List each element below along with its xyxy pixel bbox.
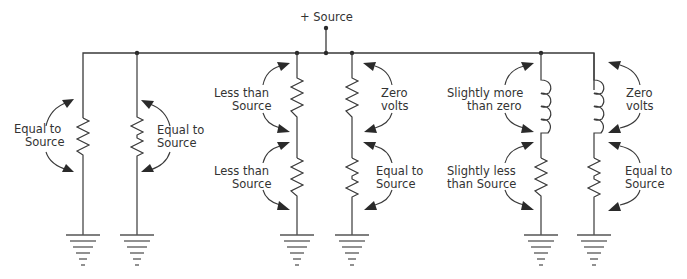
label-slightly-less-than-source: Slightly less [447,164,516,178]
label-slightly-more-than-zero: Slightly more [447,86,523,100]
ground-symbol [66,235,100,265]
ground-symbol [577,235,611,265]
label-less-than-source: Less than [214,164,269,178]
inductor-symbol [541,53,551,158]
arrow-arc [505,66,524,85]
branch-3: Less than Source Less than Source [214,53,314,265]
branch-2: Equal to Source [120,53,204,265]
arrow-arc [375,113,392,128]
inductor-symbol [594,53,604,158]
label-zero-volts: volts [381,99,409,113]
arrow-head [608,124,621,133]
arrow-arc [620,113,640,128]
arrow-arc [263,190,280,205]
ground-symbol [335,235,369,265]
label-equal-to-source: Source [25,135,65,149]
arrow-arc [620,190,640,205]
branch-4: Zero volts Equal to Source [335,53,423,265]
label-less-than-source: Source [232,99,272,113]
resistor-symbol [346,53,358,158]
arrow-arc [263,66,280,85]
label-equal-to-source: Source [625,177,665,191]
arrow-arc [375,190,392,205]
circuit-svg: + Source Equal to Source Equal to Source [0,0,687,279]
label-equal-to-source: Equal to [157,123,204,137]
source-label: + Source [300,10,353,24]
arrow-arc [505,190,524,205]
arrow-head [521,124,534,133]
label-zero-volts: volts [626,99,654,113]
resistor-symbol [291,53,303,158]
arrow-arc [263,146,280,163]
label-equal-to-source: Equal to [625,164,672,178]
arrow-head [141,164,154,172]
resistor-symbol [291,158,303,235]
label-slightly-more-than-zero: than zero [467,99,521,113]
label-less-than-source: Less than [214,86,269,100]
arrow-arc [263,113,280,128]
arrow-head [277,201,290,210]
label-zero-volts: Zero [626,86,652,100]
resistor-symbol [535,158,547,235]
resistor-symbol [131,53,143,235]
arrow-head [608,142,621,150]
arrow-arc [620,146,640,163]
branch-1: Equal to Source [14,99,100,265]
arrow-arc [150,152,170,170]
arrow-head [521,201,534,210]
resistor-symbol [588,158,600,235]
branch-5: Slightly more than zero Slightly less th… [447,53,558,265]
arrow-head [364,201,377,210]
label-equal-to-source: Equal to [14,122,61,136]
arrow-arc [620,65,640,85]
label-zero-volts: Zero [381,86,407,100]
junction-dot [324,51,328,55]
arrow-arc [375,146,392,163]
branch-6: Zero volts Equal to Source [577,53,672,265]
source-terminal-dot [324,26,328,30]
arrow-arc [375,66,392,85]
arrow-arc [505,113,524,128]
ground-symbol [280,235,314,265]
label-slightly-less-than-source: than Source [447,177,516,191]
arrow-head [608,61,621,70]
ground-symbol [524,235,558,265]
label-less-than-source: Source [232,177,272,191]
arrow-head [364,124,377,133]
arrow-head [277,124,290,133]
resistor-symbol [346,158,358,235]
arrow-head [363,62,376,71]
arrow-head [363,142,376,150]
arrow-arc [505,146,524,163]
label-equal-to-source: Equal to [376,164,423,178]
label-equal-to-source: Source [157,136,197,150]
label-equal-to-source: Source [376,177,416,191]
arrow-head [62,164,74,172]
circuit-diagram: + Source Equal to Source Equal to Source [0,0,687,279]
ground-symbol [120,235,154,265]
arrow-head [608,202,621,211]
resistor-symbol [77,118,89,235]
